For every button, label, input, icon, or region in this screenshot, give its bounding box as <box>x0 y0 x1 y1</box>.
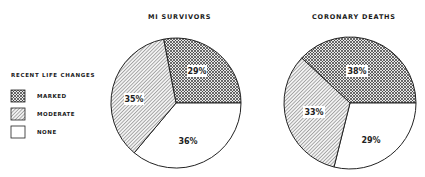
pie-coronary-deaths: 38% 33% 29% <box>284 37 416 169</box>
legend-item-moderate: MODERATE <box>11 108 75 120</box>
pie-charts: 29% 35% 36% 38% 33% 29% <box>0 0 425 177</box>
legend-item-marked: MARKED <box>11 90 67 102</box>
label-marked: 29% <box>187 67 206 76</box>
label-moderate: 35% <box>124 95 143 104</box>
label-none: 29% <box>361 136 380 145</box>
legend-label: MODERATE <box>37 111 75 117</box>
pie-mi-survivors: 29% 35% 36% <box>111 38 241 168</box>
legend-item-none: NONE <box>11 126 57 138</box>
chart-title-coronary-deaths: CORONARY DEATHS <box>312 13 396 21</box>
legend-label: MARKED <box>37 93 67 99</box>
label-none: 36% <box>178 137 197 146</box>
legend-label: NONE <box>37 129 57 135</box>
chart-title-mi-survivors: MI SURVIVORS <box>148 13 211 21</box>
label-moderate: 33% <box>304 108 323 117</box>
legend-title: RECENT LIFE CHANGES <box>11 72 95 78</box>
label-marked: 38% <box>347 67 366 76</box>
